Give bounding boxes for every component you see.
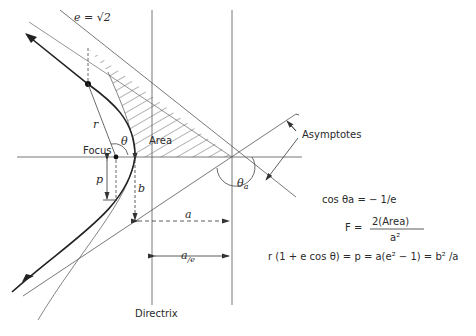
asymptote-angle-bracket (266, 121, 298, 180)
directrix-label: Directrix (135, 308, 178, 319)
r-label: r (93, 118, 99, 131)
upper-reference-line (29, 22, 232, 157)
equation-f-numerator: 2(Area) (372, 216, 409, 227)
equation-cos-theta-a: cos θa = − 1/e (322, 194, 396, 205)
a-over-e-label: a/e (181, 249, 195, 264)
asymptote-arc-arrow-top (296, 114, 299, 115)
hyperbola-diagram: e = √2 r θ Area Focus p b a a/e θa Asymp… (0, 0, 476, 336)
theta-a-arc (217, 157, 255, 186)
area-label: Area (149, 135, 172, 146)
equation-orbit: r (1 + e cos θ) = p = a(e² − 1) = b² /a (268, 251, 458, 262)
equation-f-lhs: F = (345, 222, 362, 233)
focus-point (114, 155, 119, 160)
theta-label: θ (121, 135, 128, 148)
theta-a-label: θa (237, 177, 249, 191)
secondary-hyperbola-branch (38, 72, 135, 320)
asymptotes-label: Asymptotes (302, 129, 361, 140)
equation-f-denominator: a² (390, 232, 400, 243)
eccentricity-label: e = √2 (74, 11, 111, 24)
focus-label: Focus (83, 145, 112, 156)
asymptote-arrow-top (287, 121, 296, 131)
a-label: a (185, 208, 192, 221)
b-label: b (138, 182, 145, 195)
p-label: p (96, 173, 103, 186)
